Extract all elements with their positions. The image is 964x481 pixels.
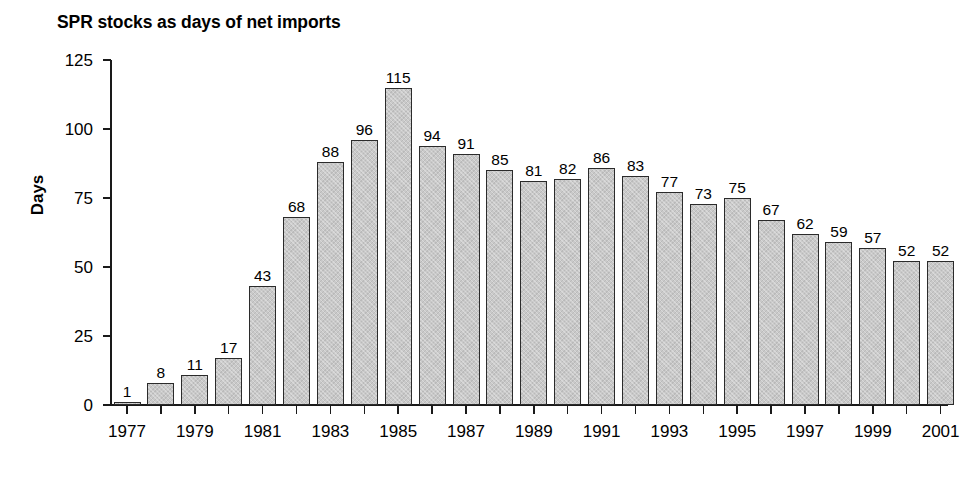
bar [215, 358, 242, 405]
y-axis-tick-label: 0 [31, 397, 93, 414]
x-axis-tick [635, 405, 637, 414]
bar [453, 154, 480, 405]
bar [283, 217, 310, 405]
y-axis-tick-label: 100 [31, 121, 93, 138]
bar [588, 168, 615, 405]
bar-value-label: 83 [606, 158, 666, 174]
y-axis-tick-label: 50 [31, 259, 93, 276]
bar [181, 375, 208, 405]
bar [351, 140, 378, 405]
x-axis-tick [736, 405, 738, 414]
x-axis-tick [126, 405, 128, 414]
x-axis-tick [940, 405, 942, 414]
x-axis-tick [906, 405, 908, 414]
x-axis-tick [872, 405, 874, 414]
x-axis-tick [533, 405, 535, 414]
x-axis-tick [194, 405, 196, 414]
bar [554, 179, 581, 405]
bar [419, 146, 446, 405]
x-axis-tick [804, 405, 806, 414]
y-axis-tick [103, 266, 111, 268]
bar [690, 204, 717, 405]
x-axis-tick [567, 405, 569, 414]
x-axis-tick [431, 405, 433, 414]
bar [893, 261, 920, 405]
y-axis-tick [103, 128, 111, 130]
x-axis-tick [703, 405, 705, 414]
bar [758, 220, 785, 405]
bar [622, 176, 649, 405]
bar [859, 248, 886, 405]
bar [792, 234, 819, 405]
bar [114, 402, 141, 405]
bar [317, 162, 344, 405]
bar [520, 181, 547, 405]
bar [656, 192, 683, 405]
y-axis-tick [103, 404, 111, 406]
y-axis-tick-label: 25 [31, 328, 93, 345]
y-axis-tick [103, 59, 111, 61]
x-axis-tick [465, 405, 467, 414]
bar-value-label: 91 [436, 136, 496, 152]
y-axis-tick [103, 335, 111, 337]
y-axis-tick-label: 125 [31, 52, 93, 69]
x-axis-tick [601, 405, 603, 414]
x-axis-tick-label: 2001 [901, 422, 964, 442]
bar-value-label: 115 [368, 70, 428, 86]
x-axis-tick [499, 405, 501, 414]
bar [249, 286, 276, 405]
y-axis-line [110, 60, 112, 405]
x-axis-tick [262, 405, 264, 414]
x-axis-tick [160, 405, 162, 414]
bar-value-label: 75 [707, 180, 767, 196]
y-axis-tick [103, 197, 111, 199]
bar [724, 198, 751, 405]
bar [927, 261, 954, 405]
x-axis-tick [296, 405, 298, 414]
x-axis-tick [364, 405, 366, 414]
x-axis-tick [669, 405, 671, 414]
bar [486, 170, 513, 405]
bar [147, 383, 174, 405]
bar [825, 242, 852, 405]
bar-value-label: 52 [911, 243, 964, 259]
x-axis-tick [228, 405, 230, 414]
y-axis-tick-label: 75 [31, 190, 93, 207]
x-axis-tick [397, 405, 399, 414]
x-axis-tick [838, 405, 840, 414]
x-axis-tick [770, 405, 772, 414]
chart-title: SPR stocks as days of net imports [57, 12, 341, 33]
x-axis-tick [330, 405, 332, 414]
